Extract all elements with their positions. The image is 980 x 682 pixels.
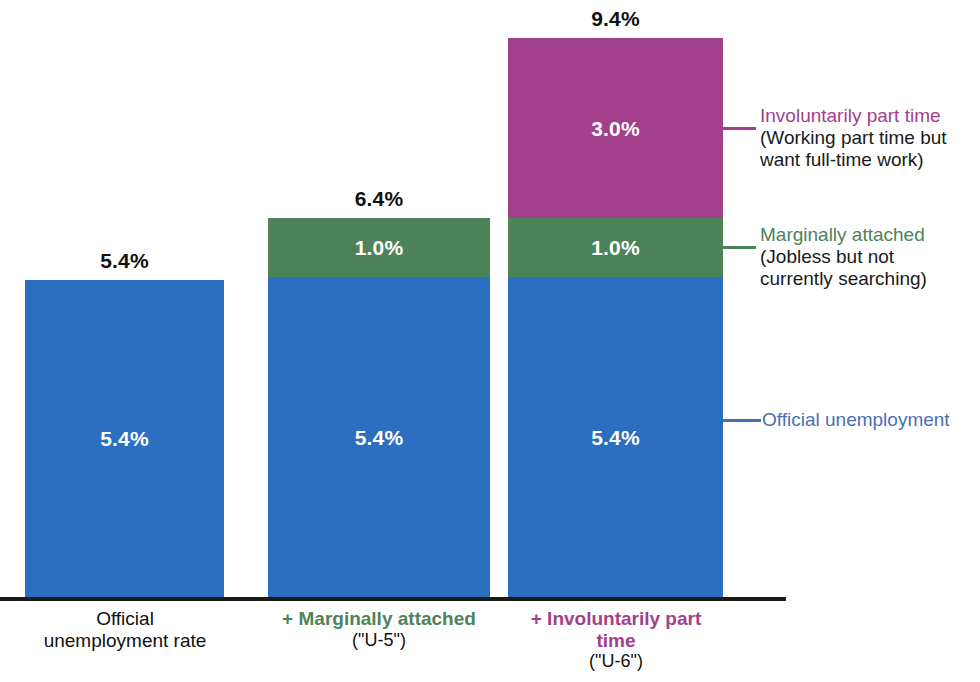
legend-title: Official unemployment	[762, 409, 980, 431]
bar-segment-u5-green: 1.0%	[268, 218, 490, 277]
bar-segment-value: 5.4%	[355, 427, 404, 448]
bar-segment-official-blue: 5.4%	[25, 280, 224, 597]
legend-connector-purple	[723, 127, 756, 130]
legend-description-line-1: (Working part time but	[760, 127, 978, 149]
legend-description-line-2: currently searching)	[760, 268, 978, 290]
legend-item-marginally-attached: Marginally attached (Jobless but not cur…	[760, 224, 978, 290]
bar-segment-u6-green: 1.0%	[508, 218, 723, 277]
x-axis-label-line-2: time	[495, 630, 737, 652]
chart-container: 5.4% 5.4% 6.4% 1.0% 5.4% 9.4% 3.0% 1.0% …	[0, 0, 980, 682]
bar-segment-value: 3.0%	[591, 118, 640, 139]
bar-segment-value: 5.4%	[100, 428, 149, 449]
legend-connector-green	[723, 246, 756, 249]
bar-segment-value: 1.0%	[591, 237, 640, 258]
legend-item-official-unemployment: Official unemployment	[762, 409, 980, 431]
bar-official: 5.4%	[25, 280, 224, 597]
x-axis-label-sub: ("U-5")	[258, 630, 500, 651]
bar-u6: 3.0% 1.0% 5.4%	[508, 38, 723, 597]
legend-connector-blue	[723, 419, 761, 422]
x-axis-label-official: Official unemployment rate	[10, 608, 240, 651]
x-axis-label-line-1: Official	[10, 608, 240, 630]
bar-total-label-official: 5.4%	[25, 250, 224, 271]
bar-total-label-u5: 6.4%	[268, 188, 490, 209]
x-axis-label-u6: + Involuntarily part time ("U-6")	[495, 608, 737, 672]
legend-description-line-1: (Jobless but not	[760, 246, 978, 268]
x-axis-label-line-1: + Marginally attached	[258, 608, 500, 630]
x-axis-label-u5: + Marginally attached ("U-5")	[258, 608, 500, 650]
legend-title: Involuntarily part time	[760, 105, 978, 127]
bar-u5: 1.0% 5.4%	[268, 218, 490, 597]
x-axis-label-sub: ("U-6")	[495, 651, 737, 672]
x-axis-label-line-2: unemployment rate	[10, 630, 240, 652]
legend-description-line-2: want full-time work)	[760, 149, 978, 171]
bar-segment-value: 1.0%	[355, 237, 404, 258]
legend-item-involuntarily-part-time: Involuntarily part time (Working part ti…	[760, 105, 978, 171]
bar-segment-u5-blue: 5.4%	[268, 277, 490, 597]
bar-total-label-u6: 9.4%	[508, 8, 723, 29]
x-axis-label-line-1: + Involuntarily part	[495, 608, 737, 630]
legend-title: Marginally attached	[760, 224, 978, 246]
x-axis-baseline	[0, 597, 786, 601]
bar-segment-u6-purple: 3.0%	[508, 38, 723, 218]
bar-segment-u6-blue: 5.4%	[508, 277, 723, 597]
bar-segment-value: 5.4%	[591, 427, 640, 448]
